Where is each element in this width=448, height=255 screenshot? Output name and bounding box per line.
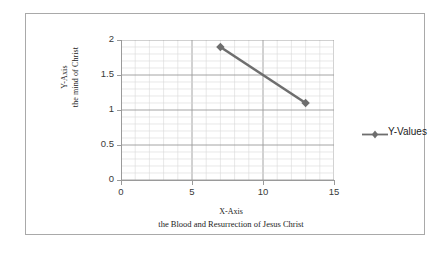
y-tick-label: 0 <box>82 174 114 184</box>
x-axis-title-sub: the Blood and Resurrection of Jesus Chri… <box>86 218 376 230</box>
y-axis-title-sub: the mind of Christ <box>70 17 81 137</box>
y-axis-line <box>121 40 122 181</box>
y-tick-label: 0.5 <box>82 139 114 149</box>
x-tick-mark <box>192 181 193 185</box>
x-tick-mark <box>263 181 264 185</box>
y-tick-label: 1.5 <box>82 69 114 79</box>
x-tick-label: 0 <box>101 186 141 198</box>
y-axis-title: Y-Axis the mind of Christ <box>59 17 81 137</box>
chart-legend: Y-Values <box>362 126 427 137</box>
y-tick-mark <box>117 145 121 146</box>
x-tick-mark <box>121 181 122 185</box>
x-tick-label: 10 <box>243 186 283 198</box>
series-y-values <box>121 40 334 180</box>
plot-area <box>121 40 334 180</box>
chart-figure: 00.511.52 051015 Y-Axis the mind of Chri… <box>0 0 448 255</box>
x-tick-label: 5 <box>172 186 212 198</box>
legend-label-y-values: Y-Values <box>388 126 427 137</box>
legend-marker-icon <box>362 126 388 137</box>
x-tick-label: 15 <box>314 186 354 198</box>
y-tick-label: 1 <box>82 104 114 114</box>
y-axis-title-main: Y-Axis <box>59 17 70 137</box>
y-tick-mark <box>117 75 121 76</box>
x-axis-title-main: X-Axis <box>86 206 376 218</box>
x-tick-mark <box>334 181 335 185</box>
y-tick-mark <box>117 110 121 111</box>
y-tick-label: 2 <box>82 34 114 44</box>
x-axis-title: X-Axis the Blood and Resurrection of Jes… <box>86 206 376 230</box>
x-axis-line <box>121 180 335 181</box>
y-tick-mark <box>117 40 121 41</box>
chart-frame: 00.511.52 051015 Y-Axis the mind of Chri… <box>25 13 425 235</box>
